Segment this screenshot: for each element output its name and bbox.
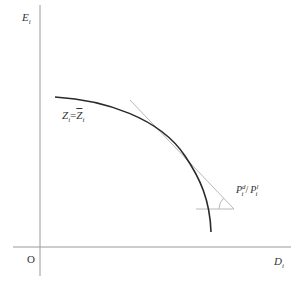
origin-label: O	[27, 254, 35, 265]
curve-label-rhs-sub: i	[82, 116, 84, 124]
y-axis-label-sub: i	[29, 18, 31, 26]
angle-arc	[219, 198, 224, 209]
diagram-figure: Ei O Di Zi=Zi Pdi/Pli	[0, 0, 300, 282]
tangent-line	[130, 100, 234, 209]
slope-label: Pdi/Pli	[236, 185, 257, 195]
y-axis-label-main: E	[22, 11, 29, 23]
diagram-canvas	[0, 0, 300, 282]
slope-num-sub: i	[242, 190, 244, 198]
y-axis-label: Ei	[22, 12, 31, 23]
curve-label: Zi=Zi	[62, 110, 84, 121]
x-axis-label-sub: i	[282, 262, 284, 270]
x-axis-label-main: D	[274, 255, 282, 267]
x-axis-label: Di	[274, 256, 284, 267]
slope-separator: /	[246, 184, 249, 195]
